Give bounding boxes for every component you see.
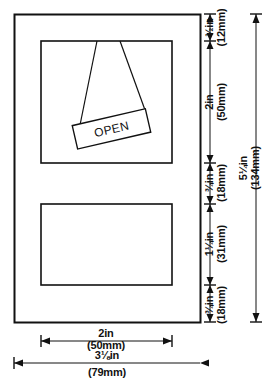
dim-overall-width-mm: (79mm) (88, 366, 126, 378)
lower-pane (41, 204, 172, 285)
dim-overall-height: 5¼in (134mm) (237, 14, 262, 322)
dim-overall-width-inches: 3⅛in (95, 349, 120, 361)
upper-pane (41, 41, 172, 163)
dim-pane-width: 2in (50mm) (41, 327, 172, 351)
dim-pane-width-inches: 2in (98, 327, 114, 339)
dim-upper-pane-mm: (50mm) (215, 83, 227, 121)
drawing-canvas: OPEN ½in (0, 0, 270, 387)
dim-mid-rail-upper-mm: (18mm) (215, 164, 227, 202)
dim-upper-pane: 2in (50mm) (203, 83, 227, 121)
dim-lower-pane-mm: (31mm) (215, 225, 227, 263)
dim-lower-pane: 1¼in (31mm) (203, 225, 227, 263)
dim-bottom-rail-inches: ¾in (203, 295, 215, 314)
dim-overall-height-inches: 5¼in (237, 155, 249, 180)
dim-mid-rail-upper-inches: ¾in (203, 173, 215, 192)
dim-upper-pane-inches: 2in (203, 94, 215, 110)
dim-top-rail-mm: (12mm) (215, 8, 227, 46)
dim-top-rail-inches: ½in (203, 18, 215, 37)
technical-drawing-sheet: OPEN ½in (0, 0, 270, 387)
dim-bottom-rail-mm: (18mm) (215, 286, 227, 324)
dim-bottom-rail: ¾in (18mm) (203, 286, 227, 324)
dim-overall-height-mm: (134mm) (249, 146, 261, 190)
dim-lower-pane-inches: 1¼in (203, 231, 215, 256)
dim-overall-width: 3⅛in (79mm) (14, 349, 209, 378)
